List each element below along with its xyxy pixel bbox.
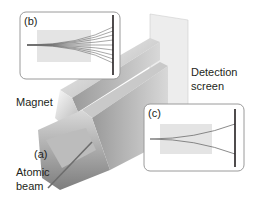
detection-label-line1: Detection (191, 66, 237, 78)
panel-a-label: (a) (34, 148, 47, 160)
magnet-label: Magnet (16, 96, 53, 108)
panel-c-label: (c) (148, 107, 161, 119)
panel-b-label: (b) (24, 15, 37, 27)
detection-label-line2: screen (191, 80, 224, 92)
atomic-beam-label-line2: beam (16, 180, 44, 192)
atomic-beam-label-line1: Atomic (16, 166, 50, 178)
